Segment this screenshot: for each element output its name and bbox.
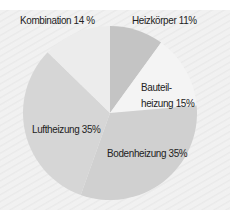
label-kombination: Kombination 14 %	[20, 13, 95, 27]
label-bodenheizung: Bodenheizung 35%	[107, 146, 187, 160]
label-bauteilheizung-line2: heizung 15%	[141, 96, 194, 110]
label-bauteilheizung-line1: Bauteil-	[141, 80, 172, 94]
pie-chart	[0, 0, 242, 221]
label-luftheizung: Luftheizung 35%	[32, 122, 101, 136]
label-heizkoerper: Heizkörper 11%	[132, 13, 197, 27]
